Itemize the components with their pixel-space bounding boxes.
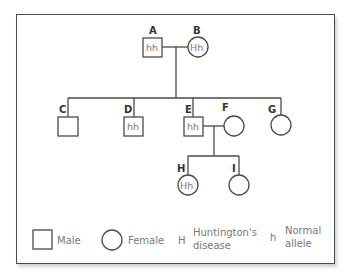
label-g: G: [268, 104, 276, 115]
label-c: C: [59, 104, 66, 115]
label-f: F: [222, 102, 229, 113]
label-b: B: [193, 25, 201, 36]
legend-male-label: Male: [57, 235, 81, 246]
label-h: H: [177, 163, 185, 174]
individual-g[interactable]: G: [268, 104, 291, 135]
individual-a[interactable]: A hh: [143, 25, 162, 57]
label-d: D: [124, 104, 132, 115]
female-symbol: [224, 116, 244, 136]
legend-recessive-line2: allele: [285, 238, 312, 249]
label-i: I: [232, 163, 236, 174]
legend-female-label: Female: [128, 235, 164, 246]
genotype-h: Hh: [180, 180, 193, 191]
genotype-a: hh: [146, 42, 158, 53]
mating-line-a-b: [162, 47, 188, 98]
pedigree-chart: A hh B Hh C D hh E hh F G H Hh I: [0, 0, 354, 276]
individual-b[interactable]: B Hh: [188, 25, 208, 57]
label-a: A: [149, 25, 157, 36]
label-e: E: [185, 104, 192, 115]
legend-female-icon: [102, 230, 122, 250]
legend-recessive-line1: Normal: [285, 225, 321, 236]
female-symbol: [271, 115, 291, 135]
legend: Male Female H Huntington's disease h Nor…: [33, 225, 321, 251]
male-symbol: [58, 117, 78, 136]
mating-line-e-f: [203, 126, 224, 156]
female-symbol: [229, 175, 249, 195]
legend-recessive-symbol: h: [270, 232, 276, 243]
genotype-e: hh: [187, 121, 199, 132]
legend-dominant-line1: Huntington's: [193, 227, 257, 238]
legend-dominant-line2: disease: [193, 240, 231, 251]
sibship-line-gen2: [68, 98, 281, 117]
genotype-d: hh: [127, 121, 139, 132]
genotype-b: Hh: [190, 42, 203, 53]
legend-male-icon: [33, 230, 52, 249]
individual-f[interactable]: F: [222, 102, 244, 136]
legend-dominant-symbol: H: [178, 235, 186, 246]
